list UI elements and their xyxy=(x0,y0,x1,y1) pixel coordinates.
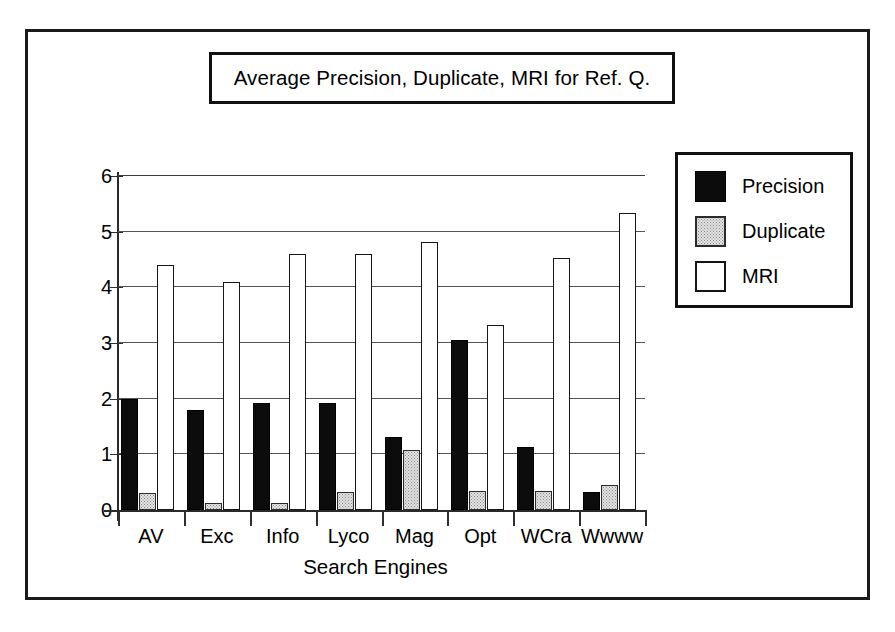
y-axis-tick-labels: 0123456 xyxy=(86,176,112,510)
x-axis-category-labels: AVExcInfoLycoMagOptWCraWwww xyxy=(104,524,647,554)
bar-opt-mri xyxy=(487,325,504,510)
bar-wwww-mri xyxy=(619,213,636,510)
bar-wwww-duplicate xyxy=(601,485,618,510)
x-label-wcra: WCra xyxy=(513,524,579,548)
bar-wcra-duplicate xyxy=(535,491,552,510)
x-tick-mark-3 xyxy=(316,511,318,526)
bar-group-opt xyxy=(447,176,513,510)
y-tick-label-6: 6 xyxy=(90,166,112,186)
x-tick-mark-8 xyxy=(645,511,647,526)
bar-wwww-precision xyxy=(583,492,600,510)
bar-group-lyco xyxy=(316,176,382,510)
chart-title-box: Average Precision, Duplicate, MRI for Re… xyxy=(209,52,675,104)
plot-inner xyxy=(118,176,645,510)
legend-label-mri: MRI xyxy=(742,265,779,288)
bar-wcra-precision xyxy=(517,447,534,510)
x-label-wwww: Wwww xyxy=(579,524,645,548)
bar-mag-mri xyxy=(421,242,438,510)
x-label-mag: Mag xyxy=(382,524,448,548)
y-tick-label-1: 1 xyxy=(90,444,112,464)
x-tick-mark-6 xyxy=(513,511,515,526)
bar-av-precision xyxy=(121,399,138,510)
bar-info-duplicate xyxy=(271,503,288,510)
x-label-exc: Exc xyxy=(184,524,250,548)
x-label-av: AV xyxy=(118,524,184,548)
bar-opt-precision xyxy=(451,340,468,510)
bar-mag-duplicate xyxy=(403,450,420,510)
x-tick-mark-2 xyxy=(250,511,252,526)
legend-label-duplicate: Duplicate xyxy=(742,220,825,243)
bar-exc-duplicate xyxy=(205,503,222,510)
x-tick-mark-4 xyxy=(382,511,384,526)
bar-lyco-mri xyxy=(355,254,372,510)
bar-info-mri xyxy=(289,254,306,510)
legend-swatch-precision-icon xyxy=(695,171,726,202)
x-label-lyco: Lyco xyxy=(316,524,382,548)
legend-swatch-mri-icon xyxy=(695,261,726,292)
bar-group-wcra xyxy=(513,176,579,510)
y-tick-label-5: 5 xyxy=(90,222,112,242)
x-axis-title: Search Engines xyxy=(104,555,647,579)
y-tick-label-3: 3 xyxy=(90,333,112,353)
y-tick-label-2: 2 xyxy=(90,389,112,409)
chart-legend: PrecisionDuplicateMRI xyxy=(675,152,853,308)
bar-mag-precision xyxy=(385,437,402,510)
legend-swatch-duplicate-icon xyxy=(695,216,726,247)
bar-wcra-mri xyxy=(553,258,570,510)
bar-exc-precision xyxy=(187,410,204,510)
bar-group-av xyxy=(118,176,184,510)
bar-group-wwww xyxy=(579,176,645,510)
x-label-info: Info xyxy=(250,524,316,548)
bar-opt-duplicate xyxy=(469,491,486,510)
x-tick-mark-1 xyxy=(184,511,186,526)
legend-label-precision: Precision xyxy=(742,175,824,198)
bar-lyco-duplicate xyxy=(337,492,354,510)
x-tick-mark-7 xyxy=(579,511,581,526)
legend-item-mri[interactable]: MRI xyxy=(695,259,779,293)
y-tick-label-4: 4 xyxy=(90,277,112,297)
x-label-opt: Opt xyxy=(447,524,513,548)
bar-group-info xyxy=(250,176,316,510)
bar-group-mag xyxy=(382,176,448,510)
legend-item-duplicate[interactable]: Duplicate xyxy=(695,214,825,248)
bar-av-mri xyxy=(157,265,174,510)
bar-lyco-precision xyxy=(319,403,336,510)
legend-item-precision[interactable]: Precision xyxy=(695,169,824,203)
bar-info-precision xyxy=(253,403,270,510)
plot-area xyxy=(118,176,645,510)
x-tick-mark-5 xyxy=(447,511,449,526)
bar-exc-mri xyxy=(223,282,240,510)
x-tick-mark-0 xyxy=(118,511,120,526)
bar-av-duplicate xyxy=(139,493,156,510)
page-title: Average Precision, Duplicate, MRI for Re… xyxy=(234,66,651,90)
bar-group-exc xyxy=(184,176,250,510)
